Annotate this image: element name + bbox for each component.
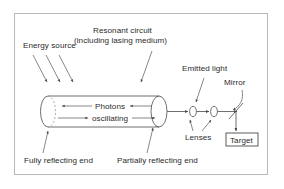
partially-reflecting-end-arrow — [147, 128, 153, 153]
label-partially-reflecting-end: Partially reflecting end — [117, 156, 198, 165]
label-lenses: Lenses — [185, 133, 211, 142]
label-oscillating: oscillating — [92, 114, 128, 123]
lens-1 — [190, 106, 197, 116]
label-fully-reflecting-end: Fully reflecting end — [24, 156, 93, 165]
label-emitted-light: Emitted light — [182, 64, 228, 73]
emitted-light-arrow — [196, 78, 204, 102]
energy-arrow-3 — [59, 55, 73, 82]
figure-canvas: Energy source Resonant circuit (includin… — [0, 0, 284, 189]
label-mirror: Mirror — [224, 78, 246, 87]
energy-arrow-1 — [33, 55, 47, 82]
label-resonant-circuit-line1: Resonant circuit — [93, 26, 153, 35]
cylinder-left-cap — [41, 96, 48, 127]
label-resonant-circuit-line2: (including lasing medium) — [74, 36, 167, 45]
lenses-arrow-2 — [202, 120, 211, 131]
label-energy-source: Energy source — [23, 41, 76, 50]
energy-arrow-2 — [46, 55, 60, 82]
label-photons: Photons — [95, 102, 125, 111]
label-target: Target — [230, 136, 253, 145]
partially-reflecting-end-face — [151, 96, 167, 127]
fully-reflecting-end-face — [48, 96, 56, 127]
lens-2 — [211, 106, 218, 116]
resonant-circuit-arrow — [141, 51, 152, 82]
laser-diagram: Energy source Resonant circuit (includin… — [0, 0, 284, 189]
mirror-arrow — [233, 90, 243, 110]
fully-reflecting-end-arrow — [43, 131, 48, 153]
lenses-arrow-1 — [190, 120, 193, 131]
